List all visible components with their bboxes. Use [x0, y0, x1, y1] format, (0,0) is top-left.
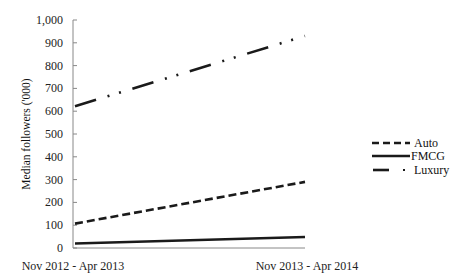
y-tick-label: 500 — [45, 127, 63, 141]
y-tick-label: 900 — [45, 36, 63, 50]
series-line-luxury — [75, 36, 305, 106]
y-tick-label: 200 — [45, 195, 63, 209]
legend: AutoFMCGLuxury — [372, 136, 449, 177]
legend-label-luxury: Luxury — [414, 163, 449, 177]
series-line-auto — [75, 182, 305, 224]
line-chart: 01002003004005006007008009001,000 Nov 20… — [0, 0, 467, 280]
y-tick-label: 0 — [57, 241, 63, 255]
y-tick-label: 1,000 — [36, 13, 63, 27]
y-tick-label: 400 — [45, 150, 63, 164]
y-tick-label: 700 — [45, 81, 63, 95]
legend-swatch-dot — [403, 169, 405, 171]
y-tick-label: 800 — [45, 59, 63, 73]
y-axis-title: Median followers ('000) — [20, 78, 33, 189]
legend-label-auto: Auto — [414, 136, 438, 150]
y-tick-label: 100 — [45, 218, 63, 232]
y-tick-label: 300 — [45, 173, 63, 187]
x-tick-label: Nov 2013 - Apr 2014 — [256, 259, 359, 273]
series-lines — [75, 36, 305, 243]
y-tick-label: 600 — [45, 104, 63, 118]
legend-label-fmcg: FMCG — [411, 149, 445, 163]
x-tick-label: Nov 2012 - Apr 2013 — [22, 259, 125, 273]
x-axis: Nov 2012 - Apr 2013Nov 2013 - Apr 2014 — [22, 248, 359, 273]
y-axis: 01002003004005006007008009001,000 — [36, 13, 77, 255]
series-line-fmcg — [75, 237, 305, 243]
